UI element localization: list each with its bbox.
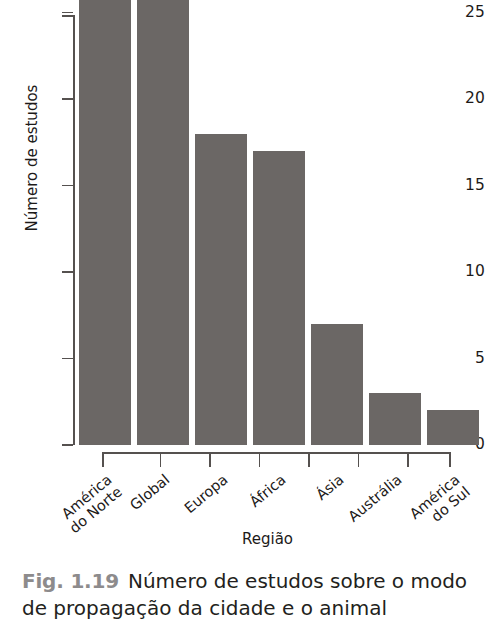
plot-area: 0510152025 Número de estudos América do …: [0, 0, 485, 560]
x-axis-tick: [102, 452, 104, 467]
x-axis-tick: [209, 452, 211, 467]
x-axis-title: Região: [0, 531, 485, 548]
y-axis-title: Número de estudos: [24, 63, 40, 253]
y-axis-tick-label: 25: [429, 5, 485, 21]
bar: [253, 151, 305, 445]
bar: [427, 410, 479, 445]
y-axis-tick: [62, 185, 73, 187]
y-axis-tick-label: 20: [429, 91, 485, 107]
bar: [79, 0, 131, 445]
x-axis-tick: [308, 452, 310, 467]
y-axis-tick: [62, 444, 73, 446]
x-axis-tick: [407, 452, 409, 467]
y-axis-tick: [62, 98, 73, 100]
bar: [369, 393, 421, 445]
caption-line-2: de propagação da cidade e o animal: [22, 595, 482, 621]
y-axis-tick-label: 10: [429, 264, 485, 280]
bar: [195, 134, 247, 445]
y-axis-top-tick: [62, 15, 74, 17]
x-axis-tick: [259, 452, 261, 467]
bar: [137, 0, 189, 445]
figure-caption: Fig. 1.19Número de estudos sobre o modo …: [22, 568, 482, 621]
x-axis-tick: [358, 452, 360, 467]
y-axis-tick-label: 5: [429, 351, 485, 367]
y-axis-line: [73, 15, 75, 445]
x-axis-tick: [449, 452, 451, 467]
caption-line-1: Número de estudos sobre o modo: [128, 569, 467, 593]
figure-bar-chart: 0510152025 Número de estudos América do …: [0, 0, 485, 560]
x-axis-line: [102, 452, 449, 454]
bar: [311, 324, 363, 445]
y-axis-tick: [62, 271, 73, 273]
x-axis-tick: [160, 452, 162, 467]
figure-number: Fig. 1.19: [22, 569, 119, 593]
y-axis-tick-label: 15: [429, 178, 485, 194]
y-axis-tick: [62, 12, 73, 14]
y-axis-tick: [62, 358, 73, 360]
